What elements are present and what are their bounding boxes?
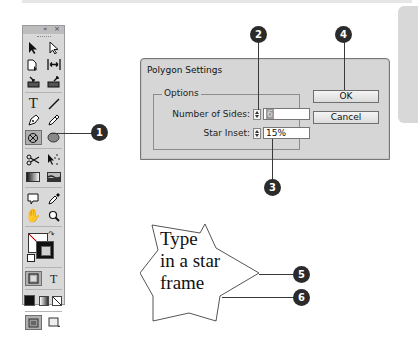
page-tool-icon[interactable] (25, 57, 42, 72)
callout-6: 6 (293, 289, 310, 306)
options-group: Options (153, 94, 300, 150)
number-of-sides-stepper[interactable] (253, 109, 261, 120)
swap-fill-stroke-icon[interactable]: ↷ (48, 230, 55, 239)
note-tool-icon[interactable] (25, 191, 42, 206)
scissors-tool-icon[interactable] (25, 152, 42, 167)
options-label: Options (162, 88, 201, 98)
tools-panel: « × T (22, 25, 65, 305)
normal-view-mode-icon[interactable] (25, 315, 42, 330)
number-of-sides-label: Number of Sides: (159, 109, 250, 119)
formatting-affects-container-icon[interactable] (25, 271, 42, 286)
number-of-sides-row: Number of Sides: 6 (159, 108, 310, 120)
gap-tool-icon[interactable] (45, 57, 62, 72)
side-panel-tab (398, 6, 418, 123)
pencil-tool-icon[interactable] (45, 113, 62, 128)
number-of-sides-input[interactable]: 6 (263, 108, 310, 120)
rectangle-frame-tool-icon[interactable] (25, 130, 42, 145)
callout-2: 2 (250, 26, 267, 43)
gradient-feather-tool-icon[interactable] (45, 169, 62, 184)
star-inset-stepper[interactable] (253, 128, 261, 139)
eyedropper-tool-icon[interactable] (45, 191, 62, 206)
dialog-title: Polygon Settings (147, 65, 222, 75)
polygon-settings-dialog: Polygon Settings Options Number of Sides… (140, 58, 390, 160)
gradient-swatch-tool-icon[interactable] (25, 169, 42, 184)
star-frame-text[interactable]: Type in a star frame (160, 228, 220, 294)
ok-button[interactable]: OK (313, 90, 379, 103)
apply-color-icon[interactable] (23, 293, 37, 308)
formatting-affects-text-icon[interactable]: T (45, 271, 62, 286)
type-tool-icon[interactable]: T (25, 96, 42, 111)
callout-4: 4 (335, 26, 352, 43)
selection-tool-icon[interactable] (25, 40, 42, 55)
callout-5: 5 (293, 266, 310, 283)
apply-none-icon[interactable] (50, 293, 64, 308)
fill-stroke-swatches: ↷ (23, 229, 64, 265)
line-tool-icon[interactable] (45, 96, 62, 111)
top-divider (22, 0, 412, 3)
star-inset-row: Star Inset: 15% (159, 127, 310, 139)
apply-gradient-icon[interactable] (37, 293, 51, 308)
direct-selection-tool-icon[interactable] (45, 40, 62, 55)
screen-mode-icon[interactable] (45, 315, 62, 330)
pen-tool-icon[interactable] (25, 113, 42, 128)
callout-3: 3 (264, 179, 281, 196)
cancel-button[interactable]: Cancel (313, 111, 379, 124)
star-inset-label: Star Inset: (159, 128, 250, 138)
collapse-icon[interactable]: « (43, 25, 47, 33)
default-fill-stroke-icon[interactable] (27, 254, 35, 262)
star-inset-input[interactable]: 15% (263, 127, 310, 139)
callout-1: 1 (91, 124, 108, 141)
free-transform-tool-icon[interactable] (45, 152, 62, 167)
zoom-tool-icon[interactable] (45, 208, 62, 223)
close-icon[interactable]: × (54, 25, 60, 33)
content-placer-icon[interactable] (45, 74, 62, 89)
stroke-swatch[interactable] (36, 241, 54, 259)
hand-tool-icon[interactable]: ✋ (25, 208, 42, 223)
content-collector-icon[interactable] (25, 74, 42, 89)
tools-panel-header[interactable]: « × (23, 26, 64, 34)
